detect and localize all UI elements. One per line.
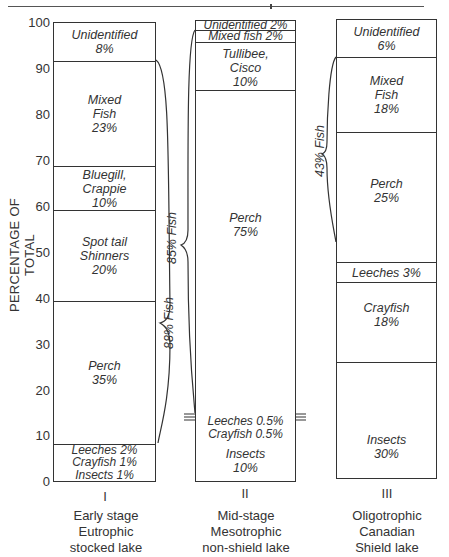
bar-ii-roman-numeral: II — [195, 486, 295, 501]
bar-ii-caption: Mid-stage Mesotrophic non-shield lake — [176, 508, 316, 556]
bar-i-roman-numeral: I — [55, 489, 155, 504]
bar-ii-fish-total-label: 85% Fish — [165, 212, 179, 264]
fish-brackets — [0, 0, 449, 557]
bar-i-caption: Early stage Eutrophic stocked lake — [36, 508, 176, 556]
bar-iii-fish-total-label: 43% Fish — [313, 125, 327, 177]
bar-iii-caption: Oligotrophic Canadian Shield lake — [317, 508, 449, 556]
bar-iii-roman-numeral: III — [337, 486, 437, 501]
bar-i-fish-total-label: 88% Fish — [162, 297, 176, 349]
